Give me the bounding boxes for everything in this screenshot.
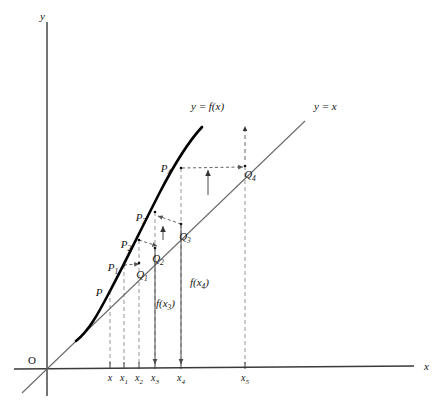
point-markers (109, 165, 247, 293)
diagram-canvas: PP1P2P3P4Q1Q2Q3Q4 xx1x2x3x4x5 f(x3)f(x4)… (0, 0, 440, 407)
point-marker-Q4 (244, 165, 247, 168)
step-arrow-P4-to-Q4 (182, 167, 243, 168)
step-arrow-P3-to-Q3 (158, 216, 181, 224)
point-marker-Q1 (138, 262, 141, 265)
curve-equation-label: y = f(x) (190, 100, 224, 113)
cobweb-diagram: PP1P2P3P4Q1Q2Q3Q4 xx1x2x3x4x5 f(x3)f(x4)… (0, 0, 440, 407)
value-label-fx4: f(x4) (190, 276, 209, 291)
vertical-down-arrows (155, 224, 181, 364)
x-axis-label: x (423, 360, 429, 372)
point-labels: PP1P2P3P4Q1Q2Q3Q4 (95, 162, 256, 298)
point-label-P2: P2 (120, 238, 132, 253)
tick-label-x5: x5 (240, 372, 249, 386)
point-marker-P3 (154, 211, 157, 214)
point-label-P: P (95, 286, 103, 298)
step-arrow-P1-to-Q1 (124, 264, 139, 265)
tick-label-x1: x1 (119, 372, 128, 386)
point-label-Q2: Q2 (152, 252, 164, 267)
point-marker-P2 (138, 239, 141, 242)
origin-label: O (28, 354, 36, 366)
tick-labels: xx1x2x3x4x5 (107, 372, 250, 386)
tick-label-x4: x4 (176, 372, 185, 386)
vertical-up-arrows (163, 126, 245, 240)
value-label-fx3: f(x3) (156, 297, 175, 312)
tick-label-x: x (107, 372, 113, 383)
point-marker-Q2 (154, 247, 157, 250)
point-label-P1: P1 (107, 261, 118, 276)
tick-label-x2: x2 (134, 372, 143, 386)
point-label-P3: P3 (135, 211, 147, 226)
point-label-P4: P4 (160, 162, 172, 177)
identity-equation-label: y = x (313, 100, 337, 112)
point-marker-Q3 (180, 223, 183, 226)
x-axis-line (14, 366, 414, 369)
point-label-Q1: Q1 (136, 268, 148, 283)
y-axis-label: y (39, 10, 45, 22)
function-value-labels: f(x3)f(x4) (156, 276, 209, 312)
step-arrow-P2-to-Q2 (139, 240, 157, 246)
point-marker-P (109, 290, 112, 293)
tick-label-x3: x3 (150, 372, 159, 386)
point-marker-P1 (123, 264, 126, 267)
point-marker-P4 (180, 167, 183, 170)
